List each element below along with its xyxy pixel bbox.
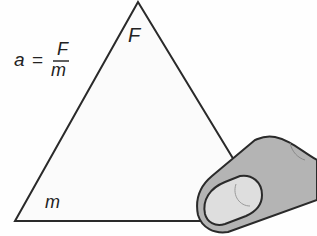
formula-lhs: a <box>14 49 25 70</box>
formula-numerator: F <box>57 39 69 59</box>
diagram-canvas: a = F m F m <box>0 0 317 236</box>
triangle-top-label: F <box>128 24 142 46</box>
formula-triangle-diagram: a = F m F m <box>0 0 317 236</box>
formula-denominator: m <box>51 60 66 80</box>
triangle-bottom-left-label: m <box>45 192 60 212</box>
formula-equals: = <box>32 49 43 70</box>
